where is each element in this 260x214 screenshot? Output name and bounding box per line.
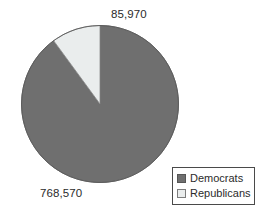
legend-swatch-democrats (177, 174, 186, 183)
pie-chart-figure: 85,970 768,570 Democrats Republicans (0, 0, 260, 214)
chart-legend: Democrats Republicans (172, 167, 255, 205)
legend-label-democrats: Democrats (190, 173, 243, 184)
data-label-democrats: 768,570 (40, 187, 82, 199)
legend-label-republicans: Republicans (190, 188, 251, 199)
legend-item-republicans: Republicans (177, 186, 254, 201)
legend-item-democrats: Democrats (177, 171, 254, 186)
data-label-republicans: 85,970 (111, 8, 147, 20)
legend-swatch-republicans (177, 189, 186, 198)
